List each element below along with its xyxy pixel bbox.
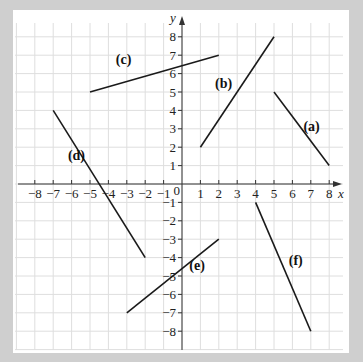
- y-axis-arrow-icon: [179, 16, 185, 25]
- y-tick-label: 4: [170, 103, 177, 118]
- segment-label: (c): [116, 52, 132, 68]
- y-tick-label: 5: [170, 85, 177, 100]
- x-tick-label: −8: [28, 186, 42, 201]
- y-tick-label: −8: [162, 324, 176, 339]
- segment-label: (a): [303, 119, 320, 135]
- x-tick-label: −6: [65, 186, 79, 201]
- axes: xy: [18, 10, 344, 350]
- y-tick-label: −2: [162, 213, 176, 228]
- x-tick-label: 6: [289, 186, 296, 201]
- y-tick-label: 8: [170, 29, 177, 44]
- x-tick-label: −7: [46, 186, 60, 201]
- y-tick-label: −7: [162, 305, 176, 320]
- segment-label: (f): [289, 253, 303, 269]
- segment-label: (b): [215, 76, 232, 92]
- x-tick-label: −2: [138, 186, 152, 201]
- y-tick-label: −6: [162, 287, 176, 302]
- y-tick-label: 3: [170, 121, 177, 136]
- x-tick-label: 7: [308, 186, 315, 201]
- x-tick-label: −5: [83, 186, 97, 201]
- y-tick-label: 2: [170, 140, 177, 155]
- x-tick-label: 4: [252, 186, 259, 201]
- x-axis-label: x: [337, 186, 344, 201]
- x-tick-label: 8: [326, 186, 333, 201]
- x-tick-label: 3: [234, 186, 241, 201]
- x-tick-label: −3: [120, 186, 134, 201]
- y-axis-label: y: [168, 10, 176, 25]
- y-tick-label: −3: [162, 232, 176, 247]
- y-tick-label: −4: [162, 250, 176, 265]
- x-tick-label: 5: [271, 186, 278, 201]
- y-tick-label: 7: [170, 48, 177, 63]
- segment-label: (d): [68, 148, 85, 164]
- x-tick-label: 1: [197, 186, 204, 201]
- x-tick-label: 2: [216, 186, 223, 201]
- origin-label: 0: [174, 183, 181, 198]
- y-tick-label: 1: [170, 158, 177, 173]
- coordinate-grid-chart: xy −8−7−6−5−4−3−2−112345678−8−7−6−5−4−3−…: [0, 0, 363, 362]
- segment-label: (e): [189, 258, 205, 274]
